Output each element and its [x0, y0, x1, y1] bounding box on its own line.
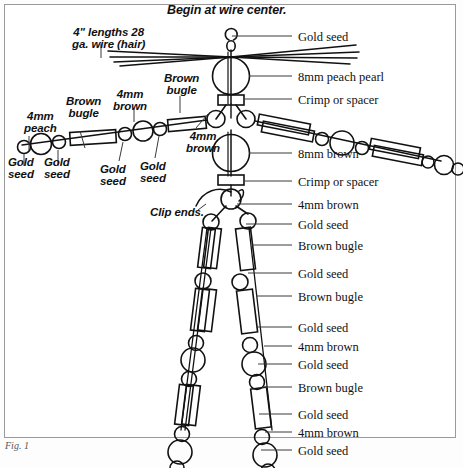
annotation-gold-seed-top: Gold seed [298, 31, 348, 45]
figure-title: Begin at wire center. [167, 4, 286, 18]
beaded-figure-drawing [0, 0, 463, 468]
annotation-4mm-brown-upper: 4mmbrown [113, 88, 147, 113]
annotation-brown-bugle-r2: Brown bugle [298, 291, 363, 305]
annotation-crimp-spacer-1: Crimp or spacer [298, 94, 379, 108]
annotation-4mm-brown-r3: 4mm brown [298, 427, 359, 441]
top-loop-and-seed [225, 28, 237, 51]
annotation-gold-seed-l3: Goldseed [100, 163, 126, 188]
annotation-4mm-brown-r1: 4mm brown [298, 199, 359, 213]
annotation-gold-seed-r5: Gold seed [298, 409, 348, 423]
annotation-gold-seed-l2: Goldseed [44, 156, 70, 181]
annotation-hair-wire: 4" lengths 28ga. wire (hair) [72, 26, 145, 51]
annotation-crimp-spacer-2: Crimp or spacer [298, 176, 379, 190]
leg-right-top-seed [240, 213, 256, 229]
hair-wires [108, 45, 359, 66]
left-leg [168, 227, 221, 468]
annotation-brown-bugle-left2: Brownbugle [164, 72, 199, 97]
figure-page: Begin at wire center. 4" lengths 28ga. w… [0, 0, 463, 468]
annotation-brown-bugle-r1: Brown bugle [298, 240, 363, 254]
annotation-4mm-peach: 4mmpeach [24, 110, 57, 135]
annotation-brown-bugle-r3: Brown bugle [298, 382, 363, 396]
annotation-gold-seed-l4: Goldseed [140, 160, 166, 185]
annotation-4mm-brown-inner: 4mmbrown [186, 130, 220, 155]
annotation-gold-seed-r1: Gold seed [298, 219, 348, 233]
annotation-8mm-brown: 8mm brown [298, 148, 359, 162]
annotation-gold-seed-r2: Gold seed [298, 268, 348, 282]
annotation-clip-ends: Clip ends. [150, 206, 204, 218]
right-arm [255, 114, 463, 175]
annotation-gold-seed-r4: Gold seed [298, 359, 348, 373]
annotation-4mm-brown-r2: 4mm brown [298, 341, 359, 355]
annotation-brown-bugle-left: Brownbugle [66, 95, 101, 120]
annotation-gold-seed-r3: Gold seed [298, 322, 348, 336]
annotation-gold-seed-r6: Gold seed [298, 445, 348, 459]
annotation-gold-seed-l1: Goldseed [8, 156, 34, 181]
annotation-8mm-peach-pearl: 8mm peach pearl [298, 71, 384, 85]
figure-caption: Fig. 1 [5, 440, 29, 451]
